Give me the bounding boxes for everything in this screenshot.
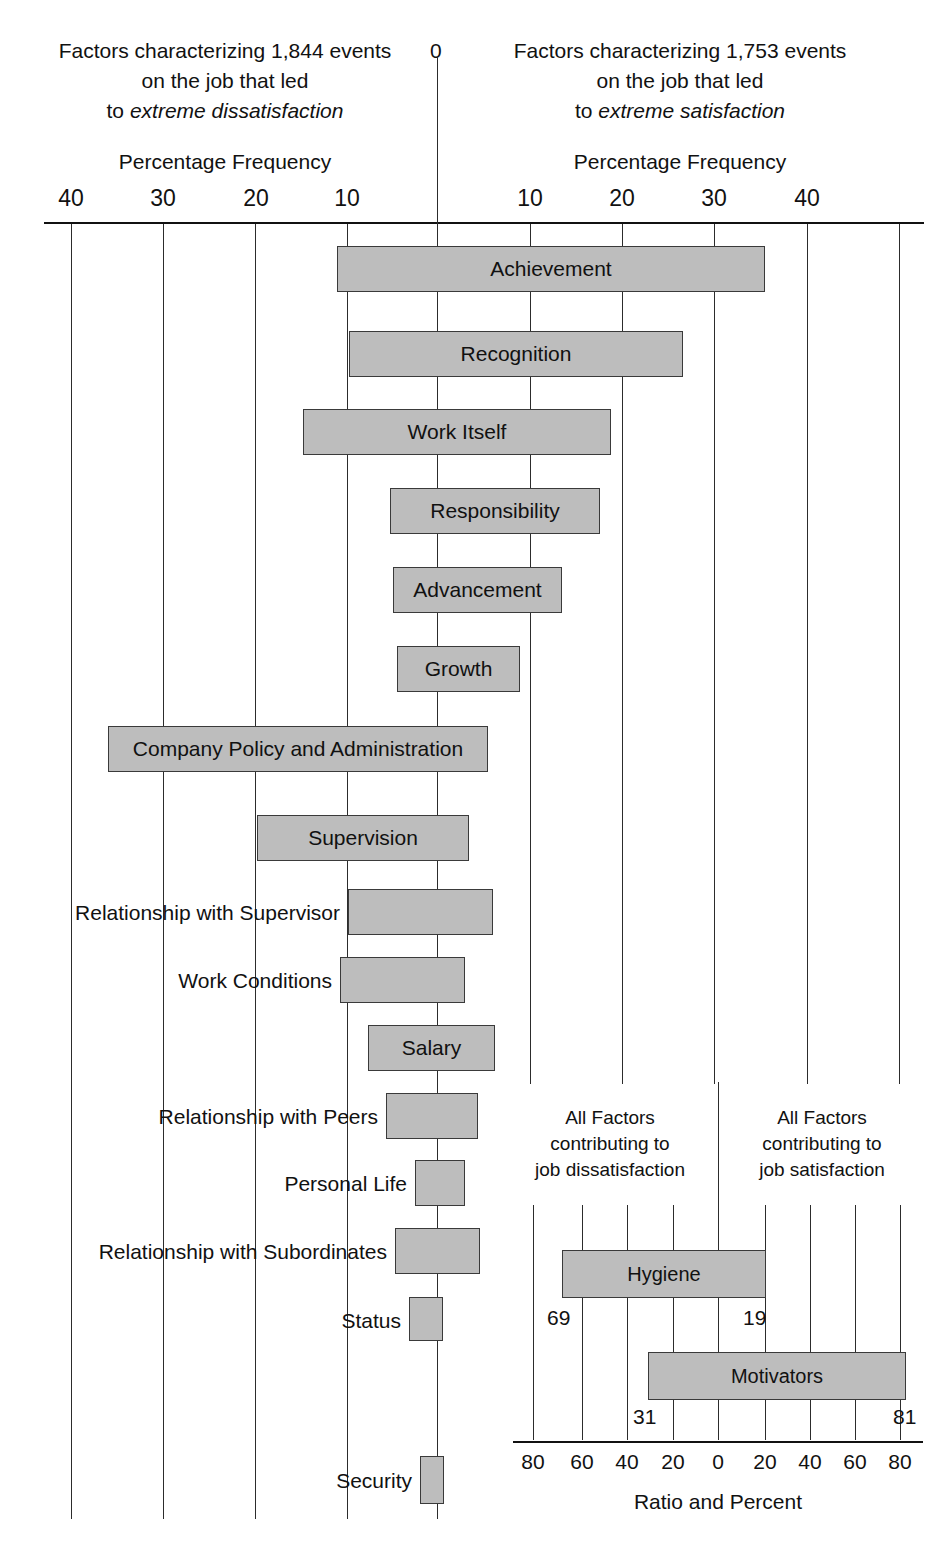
right-title-line-1: Factors characterizing 1,753 events: [460, 36, 900, 66]
tick-label-right-40: 40: [777, 185, 837, 212]
inset-gridline-80-left: [533, 1205, 534, 1440]
tick-label-left-30: 30: [133, 185, 193, 212]
left-axis-caption: Percentage Frequency: [20, 150, 430, 174]
gridline-right-40: [807, 224, 808, 1084]
bar-company-policy-and-administration[interactable]: Company Policy and Administration: [108, 726, 488, 772]
inset-left-caption-line-3: job dissatisfaction: [505, 1157, 715, 1183]
inset-tick-label-0: 0: [696, 1450, 740, 1474]
inset-value-hygiene-left: 69: [547, 1306, 570, 1330]
inset-gridline-40-left: [627, 1205, 628, 1440]
bar-relationship-with-supervisor[interactable]: [348, 889, 493, 935]
inset-left-caption-line-2: contributing to: [505, 1131, 715, 1157]
inset-tick-label-20-left: 20: [651, 1450, 695, 1474]
tick-label-right-20: 20: [592, 185, 652, 212]
right-axis-caption: Percentage Frequency: [460, 150, 900, 174]
inset-right-caption-line-2: contributing to: [722, 1131, 922, 1157]
row-label-security: Security: [0, 1470, 412, 1491]
bar-supervision[interactable]: Supervision: [257, 815, 469, 861]
inset-value-hygiene-right: 19: [743, 1306, 766, 1330]
tick-label-left-10: 10: [317, 185, 377, 212]
inset-tick-label-20-right: 20: [743, 1450, 787, 1474]
inset-gridline-40-right: [810, 1205, 811, 1440]
inset-tick-label-60-left: 60: [560, 1450, 604, 1474]
inset-bar-hygiene[interactable]: Hygiene: [562, 1250, 766, 1298]
inset-gridline-20-left: [673, 1205, 674, 1440]
gridline-right-50: [899, 224, 900, 1084]
inset-axis-line: [513, 1441, 923, 1443]
left-title-emphasis: extreme dissatisfaction: [130, 99, 344, 122]
gridline-right-30: [714, 224, 715, 1084]
right-title-emphasis: extreme satisfaction: [598, 99, 785, 122]
inset-x-axis-label: Ratio and Percent: [513, 1490, 923, 1514]
left-title-line-3: to extreme dissatisfaction: [20, 96, 430, 126]
inset-tick-label-80-left: 80: [511, 1450, 555, 1474]
inset-right-caption-line-3: job satisfaction: [722, 1157, 922, 1183]
bar-work-itself[interactable]: Work Itself: [303, 409, 611, 455]
zero-axis-label: 0: [430, 36, 442, 66]
bar-personal-life[interactable]: [415, 1160, 465, 1206]
inset-tick-label-40-left: 40: [605, 1450, 649, 1474]
inset-gridline-60-right: [855, 1205, 856, 1440]
left-chart-title: Factors characterizing 1,844 events on t…: [20, 36, 430, 126]
inset-value-motivators-left: 31: [633, 1405, 656, 1429]
inset-left-caption-line-1: All Factors: [505, 1105, 715, 1131]
tick-label-left-20: 20: [226, 185, 286, 212]
inset-left-caption: All Factors contributing to job dissatis…: [505, 1105, 715, 1183]
right-title-line-2: on the job that led: [460, 66, 900, 96]
inset-tick-label-40-right: 40: [788, 1450, 832, 1474]
inset-gridline-60-left: [582, 1205, 583, 1440]
bar-growth[interactable]: Growth: [397, 646, 520, 692]
inset-tick-label-80-right: 80: [878, 1450, 922, 1474]
bar-relationship-with-subordinates[interactable]: [395, 1228, 480, 1274]
tick-label-left-40: 40: [41, 185, 101, 212]
right-title-line-3: to extreme satisfaction: [460, 96, 900, 126]
inset-value-motivators-right: 81: [893, 1405, 916, 1429]
bar-status[interactable]: [409, 1297, 443, 1341]
bar-relationship-with-peers[interactable]: [386, 1093, 478, 1139]
left-title-line-2: on the job that led: [20, 66, 430, 96]
row-label-relationship-with-subordinates: Relationship with Subordinates: [0, 1241, 387, 1262]
bar-advancement[interactable]: Advancement: [393, 567, 562, 613]
row-label-personal-life: Personal Life: [0, 1173, 407, 1194]
bar-work-conditions[interactable]: [340, 957, 465, 1003]
bar-recognition[interactable]: Recognition: [349, 331, 683, 377]
left-title-line-1: Factors characterizing 1,844 events: [20, 36, 430, 66]
row-label-work-conditions: Work Conditions: [0, 970, 332, 991]
tick-label-right-10: 10: [500, 185, 560, 212]
row-label-status: Status: [0, 1310, 401, 1331]
bar-security[interactable]: [420, 1456, 444, 1504]
main-axis-line: [44, 222, 924, 224]
inset-tick-label-60-right: 60: [833, 1450, 877, 1474]
row-label-relationship-with-peers: Relationship with Peers: [0, 1106, 378, 1127]
inset-right-caption-line-1: All Factors: [722, 1105, 922, 1131]
bar-salary[interactable]: Salary: [368, 1025, 495, 1071]
tick-label-right-30: 30: [684, 185, 744, 212]
bar-achievement[interactable]: Achievement: [337, 246, 765, 292]
inset-bar-motivators[interactable]: Motivators: [648, 1352, 906, 1400]
right-chart-title: Factors characterizing 1,753 events on t…: [460, 36, 900, 126]
inset-right-caption: All Factors contributing to job satisfac…: [722, 1105, 922, 1183]
row-label-relationship-with-supervisor: Relationship with Supervisor: [0, 902, 340, 923]
bar-responsibility[interactable]: Responsibility: [390, 488, 600, 534]
